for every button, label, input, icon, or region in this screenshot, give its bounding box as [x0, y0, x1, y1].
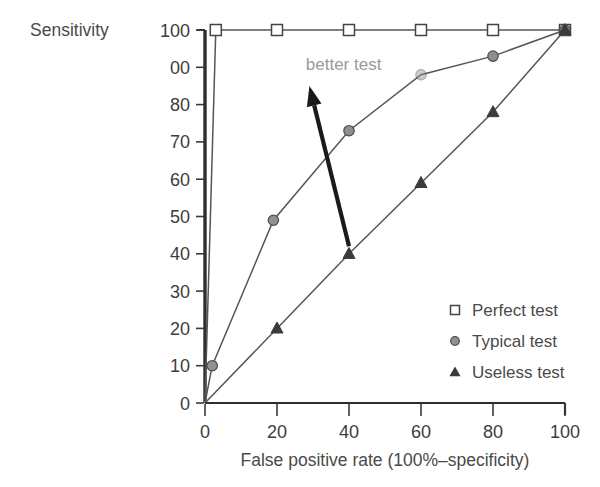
marker-open-square — [344, 25, 355, 36]
x-tick-label: 0 — [200, 422, 210, 442]
x-tick-label: 80 — [483, 422, 503, 442]
y-tick-label: 30 — [170, 282, 190, 302]
y-tick-label: 80 — [170, 95, 190, 115]
x-tick-label: 100 — [550, 422, 580, 442]
marker-open-square — [210, 25, 221, 36]
marker-filled-circle — [416, 70, 426, 80]
y-tick-label: 00 — [170, 58, 190, 78]
x-axis-title: False positive rate (100%–specificity) — [241, 450, 530, 470]
y-axis-title: Sensitivity — [30, 20, 109, 40]
marker-open-square — [416, 25, 427, 36]
marker-open-square — [272, 25, 283, 36]
x-tick-label: 20 — [267, 422, 287, 442]
annotation-label: better test — [306, 55, 382, 74]
x-tick-label: 40 — [339, 422, 359, 442]
y-tick-label: 20 — [170, 319, 190, 339]
legend-label: Typical test — [472, 332, 557, 351]
marker-filled-circle — [488, 51, 498, 61]
legend-label: Useless test — [472, 363, 565, 382]
y-tick-label: 10 — [170, 356, 190, 376]
marker-filled-circle — [207, 361, 217, 371]
marker-open-square — [488, 25, 499, 36]
legend-marker-open-square — [451, 306, 460, 315]
figure-background — [0, 0, 600, 487]
y-tick-label: 60 — [170, 170, 190, 190]
y-tick-label: 70 — [170, 132, 190, 152]
x-tick-label: 60 — [411, 422, 431, 442]
y-tick-label: 100 — [160, 21, 190, 41]
roc-curve-figure: Sensitivity 0102030405060708000100 02040… — [0, 0, 600, 487]
y-tick-label: 0 — [180, 394, 190, 414]
y-tick-label: 40 — [170, 244, 190, 264]
y-tick-label: 50 — [170, 207, 190, 227]
legend-label: Perfect test — [472, 301, 558, 320]
legend-marker-filled-circle — [451, 337, 460, 346]
marker-filled-circle — [344, 126, 354, 136]
marker-filled-circle — [268, 215, 278, 225]
